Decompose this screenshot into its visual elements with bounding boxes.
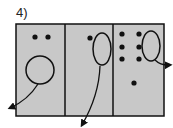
- diagram-canvas: [0, 0, 173, 128]
- dot: [45, 34, 50, 39]
- dot: [119, 44, 124, 49]
- dot: [136, 31, 141, 36]
- dot: [119, 56, 124, 61]
- dot: [136, 44, 141, 49]
- dot: [131, 80, 136, 85]
- dot: [32, 34, 37, 39]
- dot: [136, 56, 141, 61]
- dot: [119, 31, 124, 36]
- dot: [87, 35, 92, 40]
